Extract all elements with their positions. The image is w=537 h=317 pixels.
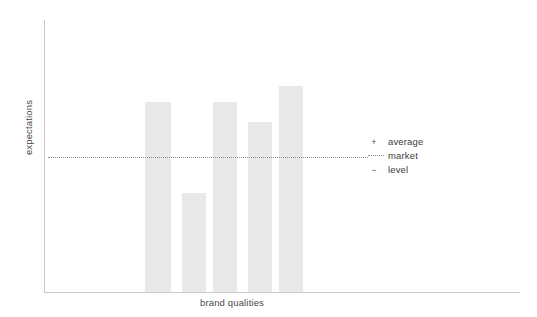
- x-axis-title: brand qualities: [132, 297, 332, 308]
- legend-label-level: level: [388, 163, 408, 177]
- chart-canvas: expectations brand qualities + average m…: [0, 0, 537, 317]
- legend-label-average: average: [388, 135, 423, 149]
- legend-label-market: market: [388, 149, 418, 163]
- y-axis-title: expectations: [23, 78, 34, 178]
- minus-sign-icon: −: [366, 163, 382, 177]
- bar-3: [213, 102, 237, 292]
- average-market-level-line: [48, 157, 368, 158]
- dotted-line-icon: [368, 155, 384, 156]
- legend-row-average: + average: [366, 135, 476, 149]
- bar-1: [145, 102, 171, 292]
- plus-sign-icon: +: [366, 135, 382, 149]
- bar-2: [182, 193, 206, 292]
- bar-4: [248, 122, 272, 292]
- legend-row-market: market: [366, 149, 476, 163]
- x-axis-line: [44, 292, 520, 293]
- bar-5: [279, 86, 303, 292]
- chart-legend: + average market − level: [366, 135, 476, 177]
- legend-row-level: − level: [366, 163, 476, 177]
- y-axis-line: [44, 20, 45, 292]
